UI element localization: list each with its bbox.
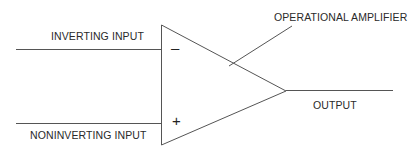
leader-line <box>229 26 292 66</box>
inverting-input-label: INVERTING INPUT <box>51 30 144 42</box>
minus-sign: – <box>171 39 179 56</box>
output-label: OUTPUT <box>313 99 357 111</box>
plus-sign: + <box>172 112 181 129</box>
operational-amplifier-label: OPERATIONAL AMPLIFIER <box>274 11 407 23</box>
noninverting-input-label: NONINVERTING INPUT <box>30 129 147 141</box>
